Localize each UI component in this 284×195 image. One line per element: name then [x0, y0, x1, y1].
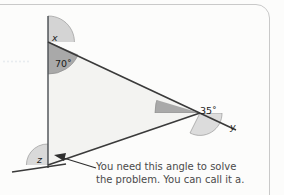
- angle-label-z: z: [37, 155, 42, 165]
- base-line-extended-left: [12, 164, 66, 172]
- callout-text-line2: the problem. You can call it a.: [96, 173, 244, 186]
- angle-label-x: x: [52, 33, 58, 43]
- callout-text-line1: You need this angle to solve: [96, 160, 236, 173]
- angle-label-y: y: [230, 122, 236, 132]
- angle-label-35: 35˚: [200, 106, 217, 116]
- figure-page: x 70˚ 35˚ y z You need this angle to sol…: [0, 0, 284, 195]
- angle-label-70: 70˚: [55, 59, 72, 69]
